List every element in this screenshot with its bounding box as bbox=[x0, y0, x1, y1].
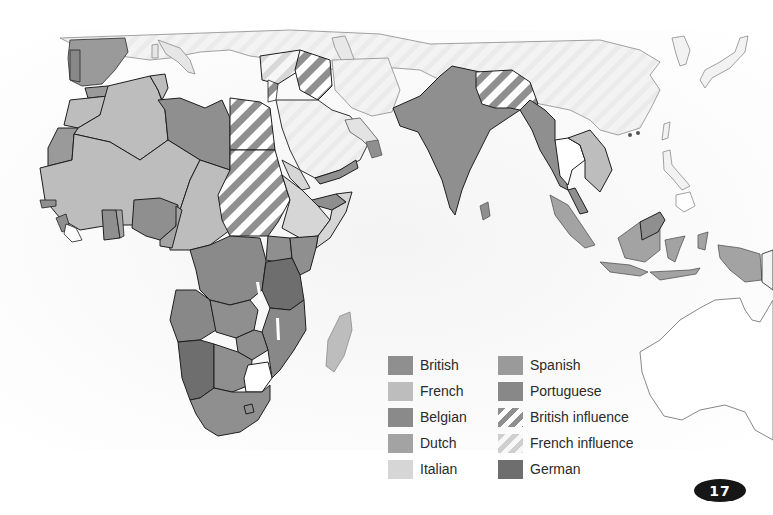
dutch-swatch bbox=[388, 434, 413, 453]
legend-column-left: British French Belgian Dutch Italian bbox=[388, 352, 467, 482]
legend-item-french: French bbox=[388, 378, 467, 404]
legend-column-right: Spanish Portuguese British influence Fre… bbox=[498, 352, 634, 482]
legend-label: French bbox=[420, 383, 464, 399]
map-legend: British French Belgian Dutch Italian Spa… bbox=[388, 352, 688, 484]
sardinia bbox=[152, 44, 158, 58]
belgian-swatch bbox=[388, 408, 413, 427]
legend-label: Italian bbox=[420, 461, 457, 477]
macau-marker bbox=[636, 131, 640, 135]
british-swatch bbox=[388, 356, 413, 375]
legend-item-portuguese: Portuguese bbox=[498, 378, 634, 404]
british-influence-swatch bbox=[498, 408, 523, 427]
legend-item-british: British bbox=[388, 352, 467, 378]
legend-label: Belgian bbox=[420, 409, 467, 425]
basutoland bbox=[244, 404, 254, 414]
legend-label: Portuguese bbox=[530, 383, 602, 399]
legend-item-french-influence: French influence bbox=[498, 430, 634, 456]
hong-kong-marker bbox=[628, 133, 632, 137]
legend-item-belgian: Belgian bbox=[388, 404, 467, 430]
legend-item-italian: Italian bbox=[388, 456, 467, 482]
legend-label: British influence bbox=[530, 409, 629, 425]
portugal bbox=[70, 50, 80, 82]
german-swatch bbox=[498, 460, 523, 479]
legend-label: German bbox=[530, 461, 581, 477]
portuguese-swatch bbox=[498, 382, 523, 401]
italian-swatch bbox=[388, 460, 413, 479]
legend-item-dutch: Dutch bbox=[388, 430, 467, 456]
page-number-badge: 17 bbox=[694, 479, 746, 502]
legend-label: Spanish bbox=[530, 357, 581, 373]
legend-item-german: German bbox=[498, 456, 634, 482]
legend-item-spanish: Spanish bbox=[498, 352, 634, 378]
french-influence-swatch bbox=[498, 434, 523, 453]
legend-label: French influence bbox=[530, 435, 634, 451]
palestine bbox=[268, 80, 278, 102]
legend-label: British bbox=[420, 357, 459, 373]
legend-item-british-influence: British influence bbox=[498, 404, 634, 430]
legend-label: Dutch bbox=[420, 435, 457, 451]
spanish-swatch bbox=[498, 356, 523, 375]
french-swatch bbox=[388, 382, 413, 401]
